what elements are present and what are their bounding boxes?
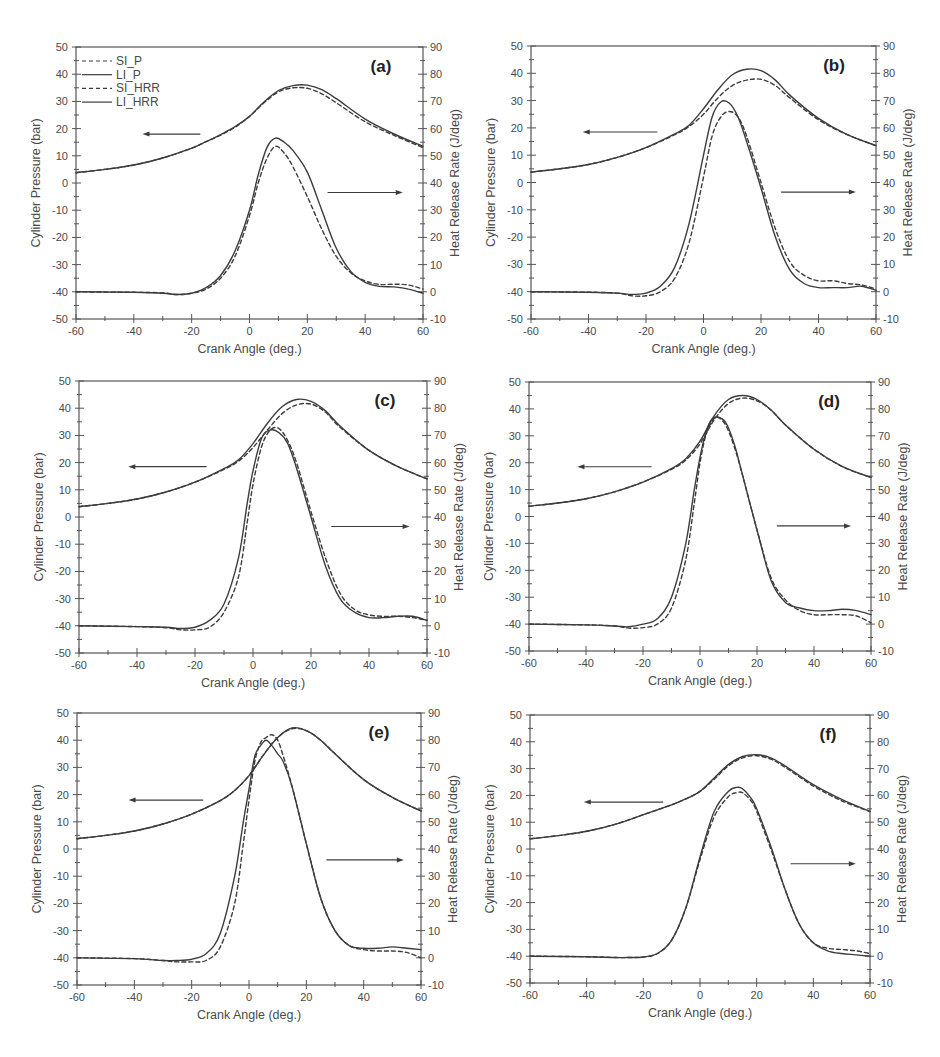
x-axis-title: Crank Angle (deg.) [648, 674, 752, 688]
arrow-left-head-icon [129, 798, 136, 803]
x-tick-label: 40 [812, 325, 824, 337]
x-tick-label: -20 [184, 325, 200, 337]
y-tick-label: -10 [505, 537, 521, 549]
plot-frame [531, 46, 876, 319]
x-tick-label: -40 [126, 325, 142, 337]
y-axis-title-right: Heat Release Rate (J/deg) [895, 775, 909, 923]
y2-tick-label: 50 [428, 816, 440, 828]
arrow-left-head-icon [128, 464, 135, 469]
y2-tick-label: 30 [878, 537, 890, 549]
y-tick-label: 30 [59, 429, 71, 441]
plot-frame [79, 381, 427, 653]
series-line-si-hrr [77, 735, 421, 962]
y2-tick-label: 40 [434, 511, 446, 523]
series-line-si-p [529, 398, 871, 506]
chart-panel-d: -60-40-200204060Crank Angle (deg.)-50-40… [482, 376, 910, 688]
series-group [529, 396, 871, 629]
plot-frame [530, 715, 870, 983]
y2-tick-label: 10 [430, 259, 442, 271]
x-tick-label: 40 [807, 989, 819, 1001]
series-line-li-p [79, 399, 427, 507]
x-tick-label: -40 [129, 659, 145, 671]
x-tick-label: 40 [359, 325, 371, 337]
x-tick-label: -60 [71, 659, 87, 671]
x-tick-label: 20 [305, 659, 317, 671]
y-tick-label: -40 [507, 286, 523, 298]
y-tick-label: 50 [511, 40, 523, 52]
panel-label: (c) [375, 391, 396, 410]
x-tick-label: 20 [301, 325, 313, 337]
y2-tick-label: 0 [428, 952, 434, 964]
x-axis: -60-40-200204060Crank Angle (deg.) [522, 978, 876, 1020]
y2-tick-label: 60 [428, 789, 440, 801]
y2-tick-label: 50 [877, 816, 889, 828]
legend: SI_PLI_PSI_HRRLI_HRR [82, 54, 160, 109]
x-tick-label: 60 [870, 325, 882, 337]
y2-tick-label: -10 [877, 977, 893, 989]
arrow-right-head-icon [397, 857, 404, 862]
chart-panel-a: -60-40-200204060Crank Angle (deg.)-50-40… [29, 41, 462, 356]
y-tick-label: -30 [55, 593, 71, 605]
x-tick-label: 60 [415, 991, 427, 1003]
y-tick-label: -40 [52, 286, 68, 298]
x-tick-label: 20 [751, 989, 763, 1001]
x-axis: -60-40-200204060Crank Angle (deg.) [523, 314, 882, 356]
x-tick-label: 20 [751, 657, 763, 669]
x-tick-label: -40 [581, 325, 597, 337]
y-axis-title-right: Heat Release Rate (J/deg) [896, 443, 910, 591]
y-tick-label: 50 [509, 376, 521, 388]
y2-tick-label: 20 [430, 231, 442, 243]
y-tick-label: -40 [506, 950, 522, 962]
y2-tick-label: 70 [430, 95, 442, 107]
x-tick-label: 40 [808, 657, 820, 669]
y-axis-title-right: Heat Release Rate (J/deg) [446, 775, 460, 923]
x-axis-title: Crank Angle (deg.) [197, 1008, 301, 1022]
x-tick-label: 40 [363, 659, 375, 671]
y-tick-label: 40 [56, 68, 68, 80]
axis-arrows [143, 132, 403, 195]
arrow-left-head-icon [584, 800, 591, 805]
arrow-right-head-icon [844, 523, 851, 528]
y-tick-label: -20 [53, 897, 69, 909]
x-tick-label: -60 [523, 325, 539, 337]
series-line-si-hrr [76, 146, 423, 294]
x-tick-label: -60 [68, 325, 84, 337]
series-line-si-p [530, 756, 870, 839]
y-axis-title-left: Cylinder Pressure (bar) [483, 784, 497, 913]
x-tick-label: -40 [126, 991, 142, 1003]
y2-tick-label: 40 [430, 177, 442, 189]
y2-tick-label: 80 [430, 68, 442, 80]
series-group [76, 85, 423, 295]
series-line-li-hrr [531, 101, 876, 295]
y2-tick-label: 50 [434, 484, 446, 496]
y2-tick-label: 20 [883, 231, 895, 243]
y-axis-right: -100102030405060708090Heat Release Rate … [416, 707, 460, 991]
y2-tick-label: 60 [434, 457, 446, 469]
panel-label: (d) [818, 392, 840, 411]
y2-tick-label: 70 [883, 95, 895, 107]
y-tick-label: -10 [507, 204, 523, 216]
x-tick-label: 60 [421, 659, 433, 671]
y2-tick-label: 80 [877, 736, 889, 748]
x-axis: -60-40-200204060Crank Angle (deg.) [521, 646, 877, 688]
y-tick-label: 30 [56, 95, 68, 107]
y2-tick-label: 20 [434, 565, 446, 577]
y-tick-label: -30 [506, 923, 522, 935]
y2-tick-label: 30 [883, 204, 895, 216]
y2-tick-label: 60 [430, 123, 442, 135]
x-axis-title: Crank Angle (deg.) [201, 676, 305, 690]
x-axis-title: Crank Angle (deg.) [197, 342, 301, 356]
series-group [77, 728, 421, 962]
y2-tick-label: 70 [878, 430, 890, 442]
y-tick-label: 40 [511, 67, 523, 79]
y-axis-title-left: Cylinder Pressure (bar) [30, 784, 44, 913]
y2-tick-label: 70 [428, 761, 440, 773]
series-line-li-p [77, 728, 421, 839]
y-tick-label: -50 [505, 645, 521, 657]
y-tick-label: 30 [509, 430, 521, 442]
x-axis-title: Crank Angle (deg.) [651, 342, 755, 356]
y2-tick-label: 20 [877, 897, 889, 909]
y-axis-right: -100102030405060708090Heat Release Rate … [871, 40, 915, 325]
x-tick-label: -40 [579, 989, 595, 1001]
axis-arrows [129, 798, 404, 863]
